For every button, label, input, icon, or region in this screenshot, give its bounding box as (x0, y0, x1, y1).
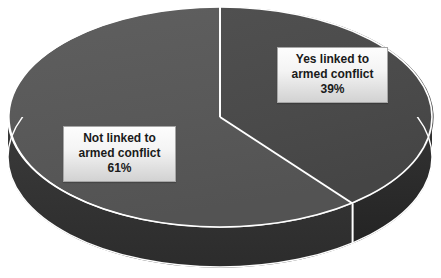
data-label-yes-linked: Yes linked to armed conflict 39% (277, 47, 388, 103)
pie-chart: Yes linked to armed conflict 39% Not lin… (0, 0, 441, 278)
data-label-not-value: 61% (69, 161, 170, 176)
data-label-not-linked: Not linked to armed conflict 61% (63, 126, 176, 182)
data-label-yes-line1: Yes linked to (283, 52, 382, 67)
data-label-yes-value: 39% (283, 82, 382, 97)
data-label-not-line1: Not linked to (69, 131, 170, 146)
data-label-not-line2: armed conflict (69, 146, 170, 161)
data-label-yes-line2: armed conflict (283, 67, 382, 82)
